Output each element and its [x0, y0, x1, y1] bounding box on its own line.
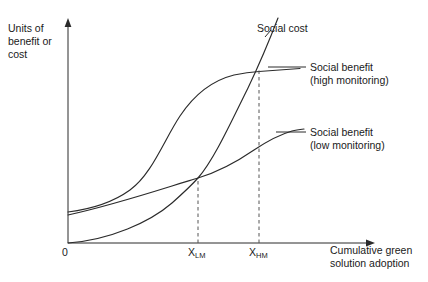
x-tick-xlm-main: X: [188, 246, 195, 258]
origin-label: 0: [62, 246, 68, 259]
curve-social-benefit-low: [68, 129, 304, 215]
x-tick-label-xlm: XLM: [188, 246, 205, 258]
x-axis-title: Cumulative green solution adoption: [330, 244, 428, 270]
curve-social-benefit-high: [68, 69, 300, 213]
curve-label-social-cost: Social cost: [257, 22, 308, 35]
x-tick-label-xhm: XHM: [249, 246, 268, 258]
x-tick-xhm-sub: HM: [256, 251, 268, 260]
x-tick-xlm-sub: LM: [195, 251, 205, 260]
chart-figure: Units of benefit or cost Cumulative gree…: [0, 0, 428, 282]
curve-label-social-benefit-high: Social benefit (high monitoring): [310, 61, 422, 87]
y-axis-title: Units of benefit or cost: [8, 22, 70, 61]
curve-social-cost: [68, 18, 278, 243]
curve-label-social-benefit-low: Social benefit (low monitoring): [310, 126, 422, 152]
x-tick-xhm-main: X: [249, 246, 256, 258]
